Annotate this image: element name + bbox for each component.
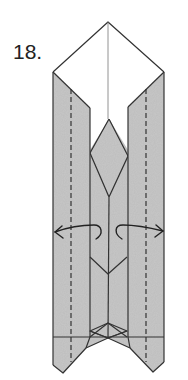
origami-diagram	[0, 0, 188, 380]
